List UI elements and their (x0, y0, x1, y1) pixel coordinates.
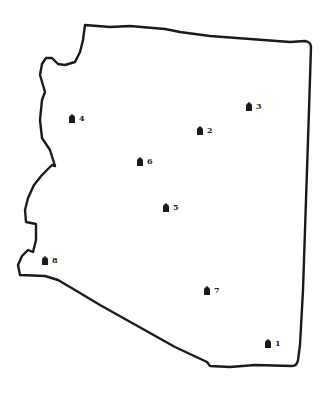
building-icon (136, 157, 144, 166)
marker-label: 6 (147, 157, 153, 166)
map-marker: 5 (162, 203, 179, 212)
building-icon (245, 102, 253, 111)
map-marker: 8 (41, 256, 58, 265)
map-marker: 4 (68, 114, 85, 123)
marker-label: 8 (52, 256, 58, 265)
marker-label: 7 (214, 286, 220, 295)
marker-label: 4 (79, 114, 85, 123)
building-icon (162, 203, 170, 212)
marker-label: 3 (256, 102, 262, 111)
building-icon (196, 126, 204, 135)
building-icon (68, 114, 76, 123)
building-icon (264, 339, 272, 348)
map-marker: 1 (264, 339, 281, 348)
marker-label: 2 (207, 126, 213, 135)
building-icon (41, 256, 49, 265)
marker-label: 5 (173, 203, 179, 212)
building-icon (203, 286, 211, 295)
state-border (18, 25, 311, 367)
marker-label: 1 (275, 339, 281, 348)
map-marker: 3 (245, 102, 262, 111)
map-marker: 2 (196, 126, 213, 135)
map-marker: 7 (203, 286, 220, 295)
map-marker: 6 (136, 157, 153, 166)
